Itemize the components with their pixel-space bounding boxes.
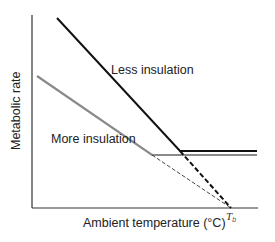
less-insulation-label: Less insulation: [111, 63, 194, 77]
tb-label: Tb: [226, 210, 236, 223]
x-axis-label: Ambient temperature (°C): [83, 216, 226, 230]
less-insulation-extrapolation: [180, 151, 231, 208]
y-axis-label: Metabolic rate: [9, 71, 23, 150]
metabolic-rate-diagram: Less insulation More insulation Ambient …: [0, 0, 275, 242]
more-insulation-label: More insulation: [51, 132, 136, 146]
